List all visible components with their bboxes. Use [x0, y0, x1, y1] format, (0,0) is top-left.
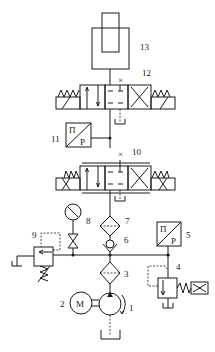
motor-2: M [70, 292, 99, 314]
pump-1 [99, 292, 125, 339]
label-5: 5 [186, 230, 191, 240]
svg-text:Π: Π [160, 224, 167, 234]
label-3: 3 [124, 269, 129, 279]
svg-text:M: M [76, 299, 84, 309]
filter-3 [100, 255, 120, 293]
label-8: 8 [86, 216, 91, 226]
svg-text:P: P [171, 236, 176, 246]
label-4: 4 [176, 262, 181, 272]
relief-valve-9 [12, 233, 60, 282]
svg-text:Π: Π [69, 125, 76, 135]
label-2: 2 [60, 299, 65, 309]
label-6: 6 [124, 235, 129, 245]
label-12: 12 [142, 68, 151, 78]
check-valve-6 [103, 236, 117, 255]
label-11: 11 [51, 134, 60, 144]
cylinder-13 [92, 13, 129, 85]
label-1: 1 [129, 303, 134, 313]
label-9: 9 [32, 230, 37, 240]
directional-valve-12: × [56, 75, 175, 109]
pressure-gauge-8 [65, 204, 81, 255]
relief-valve-4 [148, 266, 208, 308]
directional-valve-10: × [56, 149, 175, 193]
filter-7 [100, 216, 120, 236]
label-10: 10 [132, 147, 142, 157]
svg-text:×: × [118, 75, 123, 85]
label-13: 13 [140, 42, 150, 52]
pressure-switch-11: Π P [66, 123, 112, 147]
svg-text:×: × [118, 149, 123, 159]
svg-text:P: P [80, 137, 85, 147]
hydraulic-circuit-diagram: 13 × 12 Π P 11 [0, 0, 215, 352]
label-7: 7 [125, 216, 130, 226]
